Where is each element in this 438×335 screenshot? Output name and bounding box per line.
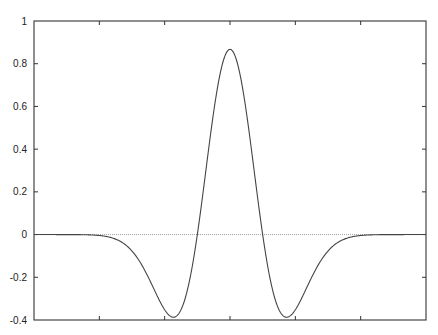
y-tick-label: 0.8 <box>13 58 27 69</box>
y-tick-label: 0.4 <box>13 144 27 155</box>
y-tick-label: 0.2 <box>13 186 27 197</box>
chart: -0.4-0.200.20.40.60.81 <box>0 0 438 335</box>
y-tick-label: -0.4 <box>10 315 28 326</box>
y-tick-label: 1 <box>21 16 27 27</box>
x-ticks-bottom <box>99 316 360 320</box>
y-tick-label: -0.2 <box>10 272 28 283</box>
y-tick-label: 0 <box>21 229 27 240</box>
y-ticks-right <box>422 64 426 278</box>
series-line-mexican-hat-wavelet <box>34 49 426 317</box>
y-ticks-left <box>34 64 38 278</box>
y-tick-labels: -0.4-0.200.20.40.60.81 <box>10 16 28 326</box>
y-tick-label: 0.6 <box>13 101 27 112</box>
plot-frame <box>34 21 426 320</box>
x-ticks-top <box>99 21 360 25</box>
